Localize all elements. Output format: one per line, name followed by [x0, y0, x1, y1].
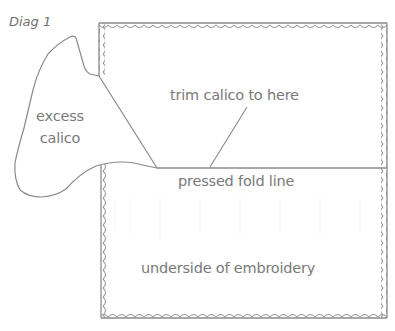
underside-label: underside of embroidery [141, 261, 315, 276]
diagram-drawing [0, 0, 395, 331]
excess-calico-label-line2: calico [30, 131, 90, 146]
diagram-title: Diag 1 [9, 15, 51, 28]
ghost-texture [115, 195, 360, 240]
excess-calico-label-line1: excess [30, 109, 90, 124]
diagram-canvas: Diag 1 excess calico trim calico to here… [0, 0, 395, 331]
fold-line-label: pressed fold line [178, 174, 294, 189]
trim-label: trim calico to here [170, 88, 299, 103]
trim-leader-line [210, 107, 247, 167]
